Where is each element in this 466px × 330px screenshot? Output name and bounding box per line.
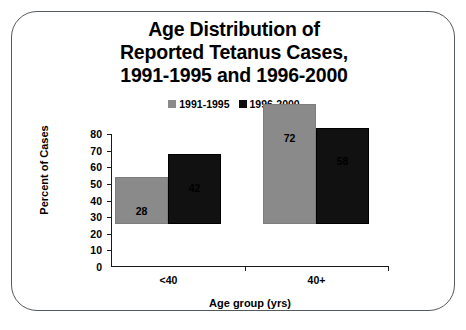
- x-axis-title: Age group (yrs): [111, 297, 389, 309]
- bar-value-42: 42: [168, 183, 221, 194]
- bar-value-72: 72: [263, 133, 316, 144]
- chart-plot-area: Percent of Cases 80 70 60 50 40 30 20 10…: [12, 12, 456, 312]
- chart-figure-frame: Age Distribution of Reported Tetanus Cas…: [11, 11, 455, 311]
- x-category-label-40plus: 40+: [290, 274, 343, 286]
- bars-layer: [12, 12, 456, 268]
- bar-1996-2000-40plus[interactable]: [316, 128, 369, 224]
- bar-1991-1995-40plus[interactable]: [263, 104, 316, 224]
- x-category-label-lt40: <40: [142, 274, 195, 286]
- bar-value-28: 28: [115, 206, 168, 217]
- bar-value-58: 58: [316, 156, 369, 167]
- bar-1991-1995-lt40[interactable]: [115, 177, 168, 224]
